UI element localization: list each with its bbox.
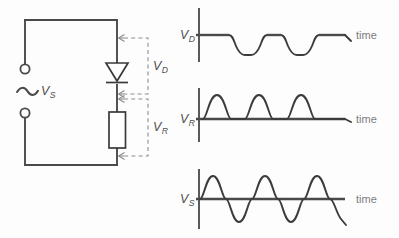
diode-icon bbox=[106, 63, 128, 83]
terminal-top-circle bbox=[20, 64, 29, 73]
plot-vd-y-label: VD bbox=[180, 29, 195, 42]
ac-sine-tilde-icon bbox=[17, 88, 38, 95]
plot-vd bbox=[196, 8, 351, 62]
circuit-wires bbox=[25, 20, 117, 165]
source-label: VS bbox=[41, 85, 55, 98]
vr-bracket-path bbox=[124, 99, 148, 156]
plot-vr-time-label: time bbox=[356, 114, 377, 125]
terminal-bottom-circle bbox=[20, 108, 29, 117]
plot-vs-time-label: time bbox=[356, 194, 377, 205]
circuit-and-waveforms-canvas bbox=[0, 0, 399, 238]
plot-vd-time-label: time bbox=[356, 30, 377, 41]
plot-vs bbox=[196, 169, 346, 229]
vd-bracket-label: VD bbox=[153, 60, 168, 73]
resistor-body bbox=[109, 112, 126, 148]
vd-waveform-path bbox=[222, 35, 345, 55]
plot-vr bbox=[196, 88, 351, 142]
vd-axis-tail bbox=[345, 35, 351, 41]
vr-axis-tail bbox=[345, 119, 351, 122]
vr-bracket-label: VR bbox=[153, 121, 168, 134]
plot-vs-y-label: VS bbox=[180, 193, 194, 206]
figure-root: VS VD VR VD time VR time VS time bbox=[0, 0, 399, 238]
vs-waveform-path bbox=[200, 176, 346, 225]
plot-vr-y-label: VR bbox=[180, 113, 195, 126]
diode-triangle bbox=[106, 63, 128, 81]
vr-waveform-path bbox=[203, 95, 345, 119]
vd-bracket-path bbox=[124, 38, 148, 94]
resistor-icon bbox=[109, 112, 126, 148]
